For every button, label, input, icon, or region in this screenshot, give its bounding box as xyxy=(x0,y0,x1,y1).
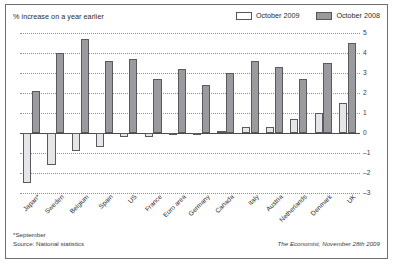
bar xyxy=(299,79,307,133)
x-axis-tick-label: Spain xyxy=(97,193,114,210)
bar-group xyxy=(141,33,165,193)
chart-credit: The Economist, November 28th 2009 xyxy=(278,240,381,247)
x-axis-tick-label: Denmark xyxy=(309,193,333,217)
x-axis-tick-label: US xyxy=(127,193,138,204)
bar-group xyxy=(287,33,311,193)
chart-legend: October 2009October 2008 xyxy=(236,11,380,20)
bar xyxy=(178,69,186,133)
bar-group xyxy=(239,33,263,193)
y-axis-tick-label: 2 xyxy=(363,89,367,96)
bar xyxy=(290,119,298,133)
y-axis-tick-label: –1 xyxy=(363,149,370,156)
x-axis-tick-label: Sweden xyxy=(44,193,66,215)
bar xyxy=(120,133,128,137)
bar xyxy=(226,73,234,133)
x-axis-tick-label: UK xyxy=(345,193,356,204)
bar xyxy=(72,133,80,151)
legend-swatch-icon xyxy=(236,12,252,20)
bar-group xyxy=(263,33,287,193)
bar xyxy=(193,133,201,135)
bar-group xyxy=(311,33,335,193)
x-axis-tick-label: Austria xyxy=(264,193,283,212)
bar xyxy=(266,127,274,133)
bar xyxy=(129,59,137,133)
bar xyxy=(339,103,347,133)
y-axis-tick-label: 0 xyxy=(363,129,367,136)
bar-group xyxy=(336,33,360,193)
bar xyxy=(348,43,356,133)
bar-group xyxy=(117,33,141,193)
bar-series-container xyxy=(20,33,360,193)
bar xyxy=(153,79,161,133)
bar xyxy=(96,133,104,147)
legend-item: October 2009 xyxy=(236,11,300,20)
y-axis-tick-label: 3 xyxy=(363,69,367,76)
bar-group xyxy=(20,33,44,193)
bar xyxy=(315,113,323,133)
bar-group xyxy=(44,33,68,193)
y-axis-tick-label: 1 xyxy=(363,109,367,116)
x-axis-tick-label: Italy xyxy=(246,193,260,207)
bar xyxy=(105,61,113,133)
bar xyxy=(251,61,259,133)
y-axis-tick-label: –2 xyxy=(363,169,370,176)
chart-figure: % increase on a year earlier October 200… xyxy=(0,0,393,266)
footnote-asterisk: *September xyxy=(13,231,84,240)
chart-footnote: *September Source: National statistics xyxy=(13,231,84,248)
footnote-source: Source: National statistics xyxy=(13,240,84,249)
y-axis-tick-label: –3 xyxy=(363,189,370,196)
bar xyxy=(47,133,55,165)
x-axis-tick-label: Canada xyxy=(214,193,235,214)
bar xyxy=(56,53,64,133)
bar-group xyxy=(190,33,214,193)
x-axis-labels: Japan*SwedenBelgiumSpainUSFranceEuro are… xyxy=(20,193,360,233)
chart-header: % increase on a year earlier October 200… xyxy=(13,12,380,26)
legend-swatch-icon xyxy=(316,12,332,20)
bar xyxy=(23,133,31,183)
legend-item: October 2008 xyxy=(316,11,380,20)
bar xyxy=(275,67,283,133)
bar xyxy=(169,133,177,135)
legend-label: October 2009 xyxy=(256,11,300,20)
x-axis-tick-label: Germany xyxy=(187,193,211,217)
y-axis-tick-label: 5 xyxy=(363,29,367,36)
x-axis-tick-label: Belgium xyxy=(68,193,90,215)
bar-group xyxy=(93,33,117,193)
bar xyxy=(323,63,331,133)
plot-area: 543210–1–2–3 xyxy=(20,33,360,193)
legend-label: October 2008 xyxy=(336,11,380,20)
bar xyxy=(145,133,153,137)
bar-group xyxy=(214,33,238,193)
bar xyxy=(242,127,250,133)
x-axis-tick-label: France xyxy=(143,193,162,212)
chart-subtitle: % increase on a year earlier xyxy=(13,12,104,21)
x-axis-tick-label: Japan* xyxy=(22,193,41,212)
bar-group xyxy=(166,33,190,193)
y-axis-tick-label: 4 xyxy=(363,49,367,56)
bar xyxy=(202,85,210,133)
bar xyxy=(217,131,225,133)
bar xyxy=(81,39,89,133)
x-axis-tick-label: Euro area xyxy=(161,193,186,218)
bar-group xyxy=(69,33,93,193)
bar xyxy=(32,91,40,133)
